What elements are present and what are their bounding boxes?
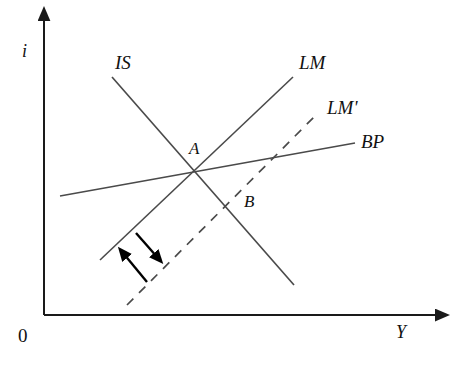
lm-curve-label: LM: [299, 53, 325, 72]
vertical-axis-label: i: [22, 42, 27, 60]
origin-label: 0: [18, 326, 28, 345]
point-a-label: A: [189, 140, 199, 157]
lm-prime-curve-label: LM': [327, 98, 357, 117]
bp-curve-label: BP: [361, 132, 384, 151]
horizontal-axis-label: Y: [396, 323, 406, 341]
is-curve-label: IS: [115, 53, 131, 72]
point-b-label: B: [244, 193, 254, 210]
figure-background: [0, 0, 466, 366]
is-lm-bp-diagram: [0, 0, 466, 366]
